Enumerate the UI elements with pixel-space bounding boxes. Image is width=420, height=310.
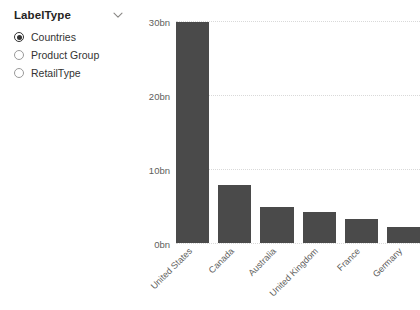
- y-axis-tick-label: 0bn: [154, 239, 170, 250]
- plot-area: 0bn10bn20bn30bn: [176, 21, 420, 243]
- slicer-title: LabelType: [14, 9, 71, 21]
- y-axis-tick-label: 30bn: [149, 17, 170, 28]
- x-axis-label-cell: Germany: [387, 246, 420, 260]
- bar-united-kingdom[interactable]: [303, 212, 336, 243]
- gridline: 0bn: [176, 243, 420, 244]
- slicer-option-label: Product Group: [31, 49, 99, 61]
- x-axis-label-cell: United Kingdom: [303, 246, 336, 260]
- radio-icon-product-group[interactable]: [14, 50, 24, 60]
- bar-australia[interactable]: [260, 207, 293, 243]
- bar-france[interactable]: [345, 219, 378, 243]
- bar-canada[interactable]: [218, 185, 251, 243]
- y-axis-tick-label: 10bn: [149, 164, 170, 175]
- slicer-option-retailtype[interactable]: RetailType: [14, 65, 124, 81]
- bar-series: [176, 21, 420, 243]
- column-chart[interactable]: 0bn10bn20bn30bn United StatesCanadaAustr…: [128, 0, 420, 310]
- x-axis-tick-label[interactable]: France: [335, 246, 362, 273]
- slicer-option-product-group[interactable]: Product Group: [14, 47, 124, 63]
- x-axis-label-cell: Canada: [218, 246, 251, 260]
- radio-icon-retailtype[interactable]: [14, 68, 24, 78]
- report-canvas: LabelType Countries Product Group Retail…: [0, 0, 420, 310]
- slicer-option-list: Countries Product Group RetailType: [14, 29, 124, 81]
- chevron-down-icon[interactable]: [112, 9, 124, 21]
- x-axis-label-cell: France: [345, 246, 378, 260]
- x-axis-tick-label[interactable]: Canada: [206, 246, 235, 275]
- y-axis-tick-label: 20bn: [149, 90, 170, 101]
- slicer-option-countries[interactable]: Countries: [14, 29, 124, 45]
- label-type-slicer[interactable]: LabelType Countries Product Group Retail…: [14, 6, 124, 83]
- slicer-option-label: Countries: [31, 31, 76, 43]
- x-axis-labels: United StatesCanadaAustraliaUnited Kingd…: [176, 246, 420, 260]
- radio-icon-countries[interactable]: [14, 32, 24, 42]
- x-axis-label-cell: United States: [176, 246, 209, 260]
- slicer-option-label: RetailType: [31, 67, 81, 79]
- x-axis-label-cell: Australia: [260, 246, 293, 260]
- bar-germany[interactable]: [387, 227, 420, 243]
- slicer-header: LabelType: [14, 6, 124, 24]
- bar-united-states[interactable]: [176, 22, 209, 243]
- x-axis-tick-label[interactable]: United States: [148, 246, 193, 291]
